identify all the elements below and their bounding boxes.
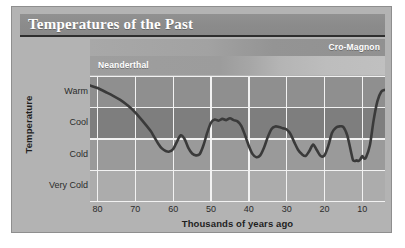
x-tick-label: 30 (276, 204, 298, 214)
y-tick-label: Very Cold (49, 180, 88, 190)
chart-title-bar: Temperatures of the Past (20, 14, 385, 35)
x-tick-label: 40 (238, 204, 260, 214)
y-axis-title: Temperature (23, 87, 34, 163)
era-label-neanderthal: Neanderthal (98, 60, 149, 70)
x-tick-label: 70 (124, 204, 146, 214)
plot-area (90, 76, 385, 202)
y-tick-label: Warm (64, 86, 88, 96)
temperature-curve (90, 76, 385, 202)
x-axis-title: Thousands of years ago (90, 218, 385, 229)
x-tick-label: 50 (200, 204, 222, 214)
x-tick-label: 80 (87, 204, 109, 214)
page-title: Temperatures of the Past (28, 16, 193, 33)
chart-figure: Temperatures of the Past Cro-Magnon Nean… (11, 6, 392, 233)
x-tick-label: 60 (162, 204, 184, 214)
y-tick-label: Cold (69, 149, 88, 159)
y-axis-labels: WarmCoolColdVery Cold (34, 76, 88, 202)
era-band-cro-magnon: Cro-Magnon (90, 39, 385, 56)
y-tick-label: Cool (69, 117, 88, 127)
era-band-neanderthal: Neanderthal (90, 56, 385, 75)
x-tick-label: 20 (313, 204, 335, 214)
era-label-cro-magnon: Cro-Magnon (328, 42, 380, 52)
x-tick-label: 10 (351, 204, 373, 214)
title-divider (20, 35, 385, 37)
x-axis-labels: 8070605040302010 (90, 204, 385, 218)
